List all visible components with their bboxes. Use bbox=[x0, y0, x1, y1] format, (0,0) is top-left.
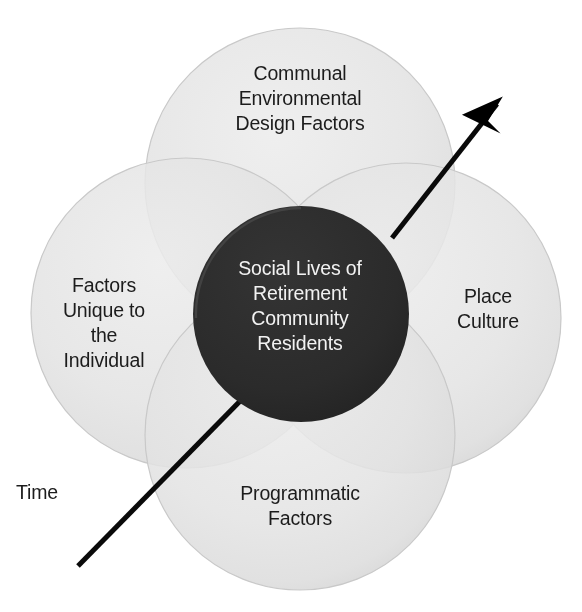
diagram-root: Communal Environmental Design Factors Fa… bbox=[0, 0, 582, 612]
venn-diagram-canvas bbox=[0, 0, 582, 612]
core-circle-social-lives bbox=[193, 206, 409, 422]
